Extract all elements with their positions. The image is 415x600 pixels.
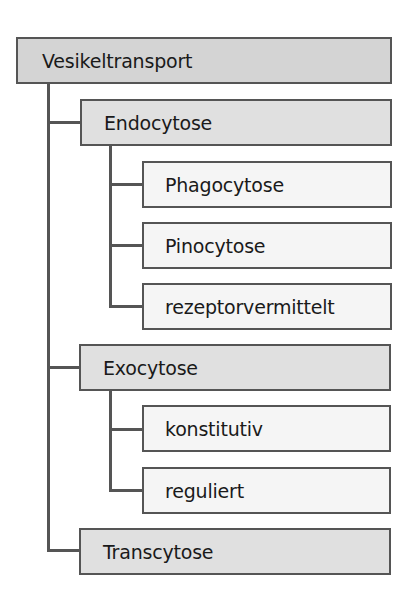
node-reguliert: reguliert — [142, 467, 391, 514]
connector-konstitutiv — [109, 428, 143, 431]
connector-endocytose-vertical — [109, 145, 112, 307]
connector-phagocytose — [109, 183, 143, 186]
node-label: Exocytose — [103, 357, 198, 379]
node-label: konstitutiv — [165, 418, 263, 440]
node-label: rezeptorvermittelt — [165, 296, 335, 318]
node-endocytose: Endocytose — [80, 99, 392, 146]
connector-exocytose-vertical — [109, 390, 112, 491]
node-rezeptorvermittelt: rezeptorvermittelt — [142, 283, 392, 330]
connector-pinocytose — [109, 244, 143, 247]
node-label: Phagocytose — [165, 174, 284, 196]
node-konstitutiv: konstitutiv — [142, 405, 391, 452]
node-label: Pinocytose — [165, 235, 265, 257]
connector-reguliert — [109, 489, 143, 492]
node-vesikeltransport: Vesikeltransport — [16, 37, 392, 84]
node-pinocytose: Pinocytose — [142, 222, 392, 269]
node-exocytose: Exocytose — [79, 344, 391, 391]
node-label: reguliert — [165, 480, 244, 502]
connector-rezeptorvermittelt — [109, 305, 143, 308]
node-label: Vesikeltransport — [42, 50, 192, 72]
connector-root-vertical — [47, 83, 50, 551]
connector-transcytose — [47, 549, 80, 552]
node-transcytose: Transcytose — [79, 528, 391, 575]
node-label: Transcytose — [103, 541, 213, 563]
connector-exocytose — [47, 366, 80, 369]
connector-endocytose — [47, 121, 80, 124]
node-label: Endocytose — [104, 112, 212, 134]
node-phagocytose: Phagocytose — [142, 161, 392, 208]
